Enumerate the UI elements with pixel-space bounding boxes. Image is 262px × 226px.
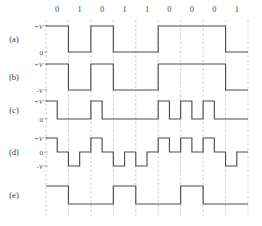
bit-label: 1 bbox=[235, 4, 239, 14]
row-label-d: (d) bbox=[9, 147, 19, 157]
row-label-b: (b) bbox=[9, 72, 19, 82]
axis-label-b-posV: +V bbox=[34, 61, 44, 69]
axis-label-a-0: 0 bbox=[40, 49, 44, 57]
waveform-a-unipolar-nrz bbox=[46, 26, 248, 52]
waveform-d-polar-rz bbox=[46, 138, 248, 166]
row-label-e: (e) bbox=[9, 190, 19, 200]
bit-label: 0 bbox=[212, 4, 216, 14]
axis-labels-group: +V0+V-V+V0+V0-V bbox=[34, 23, 48, 171]
axis-label-b-negV: -V bbox=[36, 87, 43, 95]
waveforms-group bbox=[46, 26, 248, 204]
bit-label: 1 bbox=[78, 4, 82, 14]
axis-label-d-0: 0 bbox=[40, 149, 44, 157]
axis-label-c-0: 0 bbox=[40, 116, 44, 124]
bit-label: 0 bbox=[167, 4, 171, 14]
axis-label-d-negV: -V bbox=[36, 163, 43, 171]
row-labels-group: (a)(b)(c)(d)(e) bbox=[9, 34, 19, 200]
waveform-b-polar-nrz-l bbox=[46, 64, 248, 90]
waveform-canvas: 010110001 (a)(b)(c)(d)(e) +V0+V-V+V0+V0-… bbox=[0, 0, 262, 226]
line-coding-figure: 010110001 (a)(b)(c)(d)(e) +V0+V-V+V0+V0-… bbox=[0, 0, 262, 226]
bit-label: 1 bbox=[145, 4, 149, 14]
axis-label-c-posV: +V bbox=[34, 98, 44, 106]
bit-label: 0 bbox=[55, 4, 59, 14]
row-label-c: (c) bbox=[9, 105, 19, 115]
bit-label: 0 bbox=[100, 4, 104, 14]
axis-label-d-posV: +V bbox=[34, 135, 44, 143]
waveform-c-unipolar-rz bbox=[46, 101, 248, 119]
waveform-e-nrz-i bbox=[46, 186, 248, 204]
bit-label: 0 bbox=[190, 4, 194, 14]
axis-label-a-posV: +V bbox=[34, 23, 44, 31]
bit-label: 1 bbox=[122, 4, 126, 14]
bit-sequence-labels: 010110001 bbox=[55, 4, 239, 14]
row-label-a: (a) bbox=[9, 34, 19, 44]
